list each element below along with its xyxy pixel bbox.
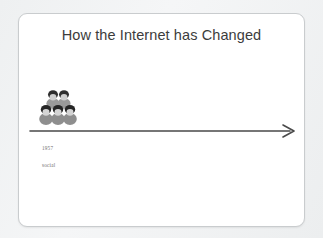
timeline-event-label: social	[42, 162, 55, 169]
people-group-icon	[34, 86, 82, 126]
page-title: How the Internet has Changed	[19, 26, 304, 44]
timeline-event-year: 1957	[42, 145, 53, 152]
right-arrow-icon	[28, 122, 300, 140]
slide-card[interactable]: How the Internet has Changed	[18, 13, 305, 227]
